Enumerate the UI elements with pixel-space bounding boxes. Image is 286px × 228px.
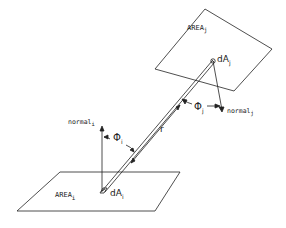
area-j-plane [155,9,272,91]
dA-i-label: dAi [110,188,124,200]
dA-j-label: dAj [217,54,231,67]
phi-j-label: Φj [194,101,204,115]
normal-i-label: normali [68,118,95,127]
area-i-plane [17,172,180,211]
r-dimension-arrows [131,105,180,163]
view-factor-diagram: AREAj dAj AREAi dAi normali normalj Φi Φ… [0,0,286,228]
area-j-label: AREAj [187,24,207,34]
normal-j-label: normalj [227,107,254,117]
area-i-label: AREAi [55,191,76,201]
phi-i-label: Φi [113,132,123,145]
r-label: r [160,124,164,134]
normal-i-arrow [100,126,104,191]
